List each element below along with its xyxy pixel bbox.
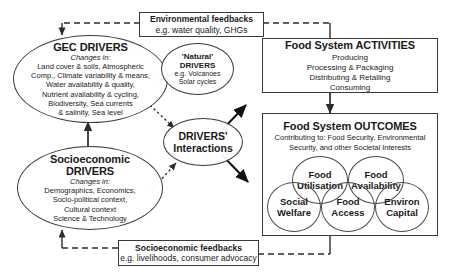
food-system-activities-title: Food System ACTIVITIES [285, 39, 415, 51]
socioeconomic-drivers-changes-label: Changes in: [70, 177, 110, 186]
socioeconomic-feedbacks-subtitle: e.g. livelihoods, consumer advocacy [120, 253, 257, 264]
environmental-feedbacks-box: Environmental feedbacks e.g. water quali… [139, 12, 264, 37]
gec-drivers-body: Land cover & soils, Atmospheric Comp., C… [31, 62, 150, 117]
outcome-circle-social-welfare: Social Welfare [267, 182, 321, 232]
outcome-circle-environ-capital-line2: Capital [386, 207, 418, 218]
drivers-interactions-title-line2: Interactions [173, 142, 233, 154]
gec-drivers-changes-label: Changes in: [70, 53, 110, 62]
socioeconomic-feedbacks-box: Socioeconomic feedbacks e.g. livelihoods… [118, 240, 259, 266]
socioeconomic-feedbacks-title: Socioeconomic feedbacks [135, 243, 242, 254]
socioeconomic-drivers-ellipse: Socioeconomic DRIVERS Changes in: Demogr… [17, 146, 163, 230]
outcome-circle-environ-capital: Environ Capital [375, 182, 429, 232]
natural-drivers-title-line2: DRIVERS [180, 61, 216, 70]
diagram-canvas: Environmental feedbacks e.g. water quali… [0, 0, 450, 277]
food-system-outcomes-box: Food System OUTCOMES Contributing to: Fo… [262, 113, 438, 236]
food-system-outcomes-subtitle: Contributing to: Food Security, Environm… [275, 133, 426, 152]
wire-env-feedback-to-gec [62, 23, 140, 35]
socioeconomic-drivers-body: Demographics, Economics, Socio-political… [44, 186, 135, 223]
environmental-feedbacks-subtitle: e.g. water quality, GHGs [156, 25, 248, 36]
wire-outcomes-to-socio-feedback [258, 236, 330, 254]
drivers-interactions-title-line1: DRIVERS' [178, 130, 227, 142]
outcome-circle-food-access: Food Access [321, 182, 375, 232]
drivers-interactions-ellipse: DRIVERS' Interactions [163, 118, 243, 166]
socioeconomic-drivers-title-line2: DRIVERS [66, 165, 114, 177]
socioeconomic-drivers-title-line1: Socioeconomic [50, 153, 130, 165]
outcome-circles-group: Food Utilisation Food Availability Socia… [263, 156, 439, 234]
gec-drivers-ellipse: GEC DRIVERS Changes in: Land cover & soi… [13, 35, 168, 123]
food-system-outcomes-title: Food System OUTCOMES [283, 120, 417, 132]
outcome-circle-food-access-line1: Food [336, 196, 359, 207]
outcome-circle-environ-capital-line1: Environ [384, 196, 419, 207]
outcome-circle-social-welfare-line2: Welfare [277, 207, 311, 218]
food-system-activities-items: Producing Processing & Packaging Distrib… [307, 53, 394, 93]
outcome-circle-food-availability-line1: Food [364, 169, 387, 180]
natural-drivers-title-line1: 'Natural' [182, 52, 213, 61]
natural-drivers-body: e.g. Volcanoes Solar cycles [175, 70, 221, 87]
environmental-feedbacks-title: Environmental feedbacks [150, 14, 253, 25]
gec-drivers-title: GEC DRIVERS [53, 41, 128, 53]
outcome-circle-food-access-line2: Access [331, 207, 364, 218]
wire-gec-to-interactions [150, 105, 174, 128]
wire-env-feedback-to-activities [263, 23, 330, 38]
wire-socio-feedback-to-socio-drivers [62, 230, 118, 248]
outcome-circle-social-welfare-line1: Social [280, 196, 308, 207]
natural-drivers-ellipse: 'Natural' DRIVERS e.g. Volcanoes Solar c… [161, 43, 234, 95]
outcome-circle-food-utilisation-line1: Food [308, 169, 331, 180]
food-system-activities-box: Food System ACTIVITIES Producing Process… [262, 38, 438, 93]
